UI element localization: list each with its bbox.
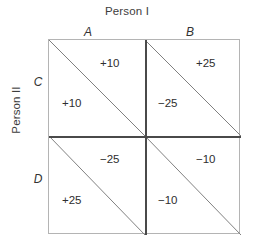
- cell-b-c-person-one-payoff: +25: [196, 57, 216, 69]
- cell-b-c-person-two-payoff: −25: [158, 97, 178, 109]
- horizontal-divider: [49, 136, 241, 138]
- cell-a-c-person-two-payoff: +10: [62, 97, 82, 109]
- row-label-c: C: [28, 75, 48, 89]
- vertical-divider: [145, 40, 147, 235]
- cell-a-d-person-one-payoff: −25: [100, 153, 120, 165]
- payoff-matrix-figure: Person I Person II A B C D +10 +10 +25 −…: [0, 0, 254, 246]
- row-label-d: D: [28, 172, 48, 186]
- cell-a-d-person-two-payoff: +25: [62, 194, 82, 206]
- person-one-title: Person I: [0, 5, 254, 17]
- cell-b-d-person-one-payoff: −10: [196, 153, 216, 165]
- person-two-title: Person II: [10, 62, 22, 158]
- cell-b-d-person-two-payoff: −10: [158, 194, 178, 206]
- column-label-a: A: [76, 25, 100, 39]
- column-label-b: B: [178, 25, 202, 39]
- cell-a-c-person-one-payoff: +10: [100, 57, 120, 69]
